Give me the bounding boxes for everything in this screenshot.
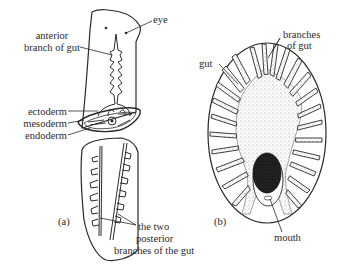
mouth-opening (264, 196, 272, 200)
label-mouth: mouth (274, 232, 301, 243)
label-branches-line2: of gut (287, 40, 312, 51)
label-eye: eye (153, 14, 168, 25)
label-anterior-line1: anterior (24, 30, 80, 41)
label-posterior-line2: posterior (136, 233, 173, 244)
label-endoderm: endoderm (12, 130, 67, 141)
panel-a-caption: (a) (58, 216, 70, 227)
label-posterior-line3: branches of the gut (114, 245, 194, 256)
label-branches-line1: branches (283, 29, 320, 40)
label-ectoderm: ectoderm (12, 106, 67, 117)
panel-a-drawing (78, 10, 141, 261)
anterior-gut-branch (110, 34, 122, 104)
pharynx (253, 153, 281, 193)
leader-mesoderm (68, 120, 84, 123)
posterior-gut-branch-right (110, 143, 131, 240)
label-posterior-line1: the two (138, 221, 169, 232)
leader-mouth (270, 199, 282, 232)
leader-anterior (80, 47, 112, 55)
label-gut: gut (199, 58, 212, 69)
panel-b-drawing (208, 43, 326, 223)
eye-left (105, 27, 108, 30)
label-anterior-line2: branch of gut (14, 42, 80, 53)
label-mesoderm: mesoderm (12, 118, 67, 129)
flatworm-diagram: eye anterior branch of gut ectoderm meso… (0, 0, 341, 266)
posterior-gut-branch-left (90, 146, 102, 236)
leader-eye (126, 21, 152, 33)
leader-endoderm (68, 128, 90, 135)
panel-b-caption: (b) (214, 216, 226, 227)
posterior-body-outline (81, 138, 138, 261)
